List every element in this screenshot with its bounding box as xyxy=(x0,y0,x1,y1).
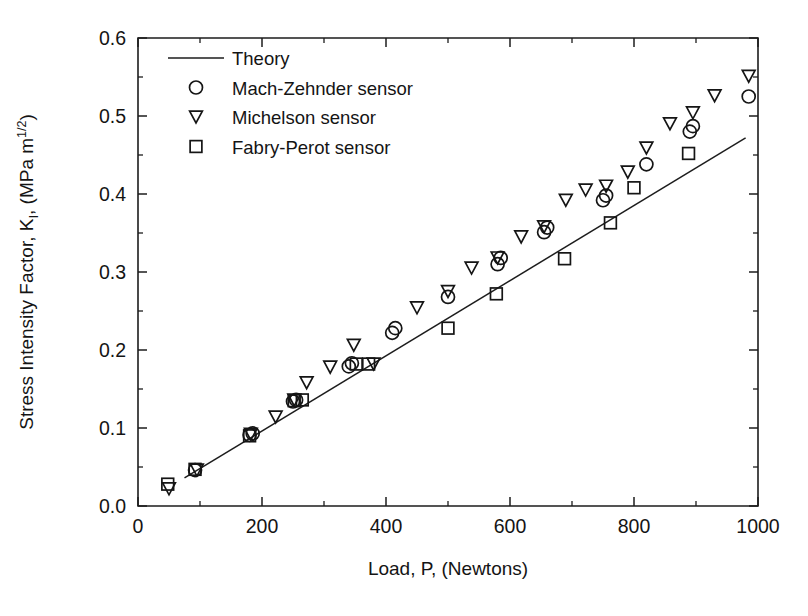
axes-frame xyxy=(138,38,758,506)
data-point-triangle-down xyxy=(640,142,653,154)
data-point-triangle-down xyxy=(300,377,313,389)
y-tick-label: 0.5 xyxy=(99,105,126,127)
y-tick-label: 0.2 xyxy=(99,339,126,361)
data-point-square xyxy=(683,148,695,160)
legend-label: Mach-Zehnder sensor xyxy=(232,78,413,99)
x-tick-label: 800 xyxy=(618,515,651,537)
x-tick-labels: 02004006008001000 xyxy=(133,515,780,537)
x-tick-label: 200 xyxy=(246,515,279,537)
data-point-triangle-down xyxy=(579,184,592,196)
data-point-triangle-down xyxy=(708,90,721,102)
x-tick-label: 400 xyxy=(370,515,403,537)
theory-line xyxy=(185,138,746,478)
data-series xyxy=(162,70,755,494)
data-point-square xyxy=(442,322,454,334)
data-point-triangle-down xyxy=(465,262,478,274)
data-point-triangle-down xyxy=(621,166,634,178)
data-point-triangle-down xyxy=(515,231,528,243)
y-tick-label: 0.4 xyxy=(99,183,126,205)
legend-label: Fabry-Perot sensor xyxy=(232,137,390,158)
x-tick-label: 0 xyxy=(133,515,144,537)
stress-intensity-scatter-chart: 02004006008001000 0.00.10.20.30.40.50.6 … xyxy=(0,0,808,616)
data-point-circle xyxy=(389,322,402,335)
data-point-circle xyxy=(386,326,399,339)
y-tick-label: 0.6 xyxy=(99,27,126,49)
y-axis-title: Stress Intensity Factor, KI, (MPa m1/2) xyxy=(15,114,41,430)
data-point-circle xyxy=(342,360,355,373)
data-point-square xyxy=(559,253,571,265)
data-point-circle xyxy=(597,194,610,207)
data-point-triangle-down xyxy=(559,194,572,206)
data-point-triangle-down xyxy=(664,118,677,130)
y-tick-label: 0.0 xyxy=(99,495,126,517)
series-michelson-sensor xyxy=(163,70,755,494)
axis-ticks xyxy=(138,38,758,506)
series-fabry-perot-sensor xyxy=(162,148,695,490)
plot-frame xyxy=(138,38,758,506)
figure-root: 02004006008001000 0.00.10.20.30.40.50.6 … xyxy=(0,0,808,616)
series-theory xyxy=(185,138,746,478)
legend-swatch-circle xyxy=(190,81,203,94)
legend-label: Michelson sensor xyxy=(232,107,376,128)
data-point-triangle-down xyxy=(269,411,282,423)
data-point-triangle-down xyxy=(411,302,424,314)
data-point-triangle-down xyxy=(324,361,337,373)
data-point-circle xyxy=(742,90,755,103)
data-point-circle xyxy=(640,158,653,171)
data-point-square xyxy=(628,182,640,194)
legend-swatch-triangle-down xyxy=(190,111,203,123)
legend-swatch-square xyxy=(190,141,202,153)
y-tick-labels: 0.00.10.20.30.40.50.6 xyxy=(99,27,126,517)
data-point-triangle-down xyxy=(347,339,360,351)
legend-label: Theory xyxy=(232,48,290,69)
x-tick-label: 1000 xyxy=(736,515,780,537)
x-axis-title: Load, P, (Newtons) xyxy=(368,558,528,579)
y-tick-label: 0.3 xyxy=(99,261,126,283)
chart-legend: TheoryMach-Zehnder sensorMichelson senso… xyxy=(168,48,413,158)
data-point-triangle-down xyxy=(742,70,755,82)
y-tick-label: 0.1 xyxy=(99,417,126,439)
data-point-triangle-down xyxy=(687,107,700,119)
x-axis-title-text: Load, P, (Newtons) xyxy=(368,558,528,579)
x-tick-label: 600 xyxy=(494,515,527,537)
y-axis-title-text: Stress Intensity Factor, KI, (MPa m1/2) xyxy=(15,114,41,430)
